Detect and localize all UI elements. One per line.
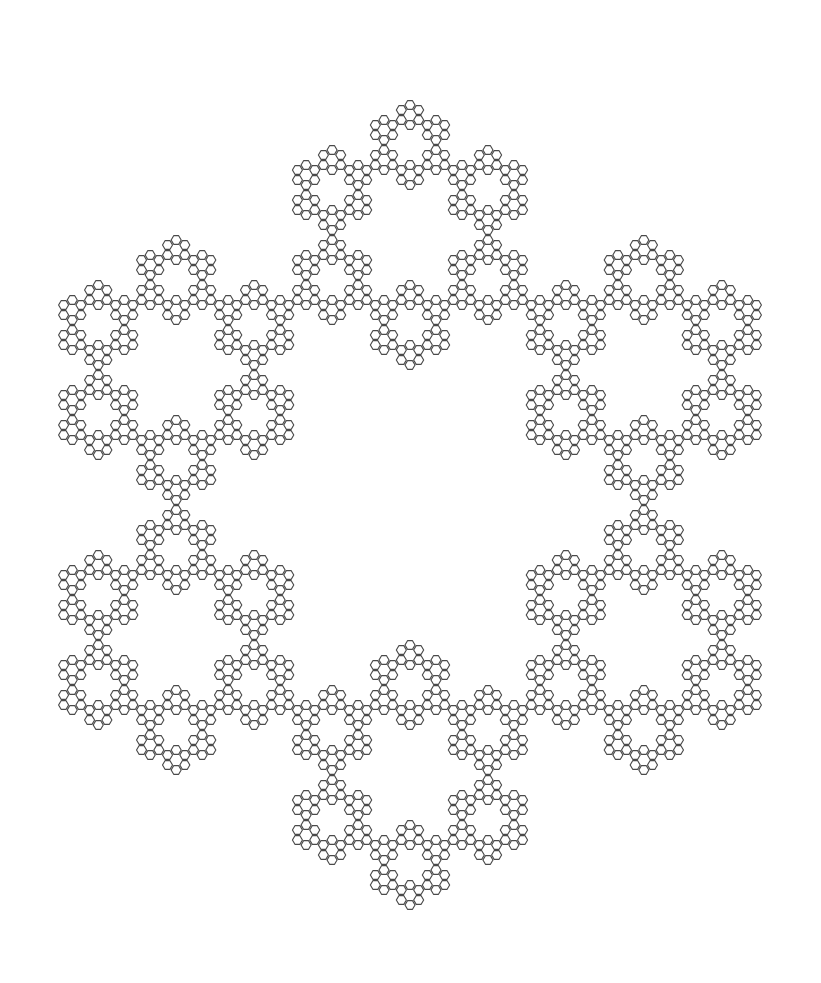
background-rect (0, 0, 821, 983)
fractal-figure-canvas: Hexagonal Fractal Snowflake Hexaflake-st… (0, 0, 821, 983)
fractal-snowflake-svg: Hexagonal Fractal Snowflake Hexaflake-st… (0, 0, 821, 983)
